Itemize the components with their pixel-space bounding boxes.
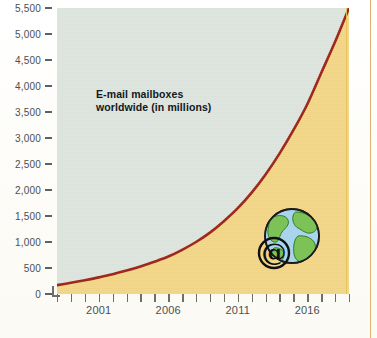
globe-at-symbol-icon: @ [252,206,324,278]
y-axis-tick-label: 1,000 [15,237,41,248]
y-axis-tick-mark [45,85,52,87]
x-axis-tick-mark [57,294,58,302]
y-axis-tick-label: 2,500 [15,159,41,170]
y-axis-tick: 0 [0,288,57,300]
y-axis-tick: 3,500 [0,106,57,118]
y-axis-tick-mark [45,163,52,165]
at-symbol-glyph: @ [262,238,287,267]
y-axis-tick: 4,500 [0,54,57,66]
y-axis-tick: 3,000 [0,132,57,144]
chart-title: E-mail mailboxes worldwide (in millions) [96,88,256,114]
y-axis-tick-label: 4,500 [15,55,41,66]
x-axis-tick-mark [85,294,86,302]
x-axis-tick-mark [349,294,350,302]
y-axis-tick-mark [45,7,52,9]
x-axis-tick-mark [307,294,308,302]
x-axis-tick-mark [99,294,100,302]
x-axis-tick-label: 2011 [226,304,250,316]
y-axis: 5,5005,0004,5004,0003,5003,0002,5002,000… [0,0,57,338]
chart-title-line-2: worldwide (in millions) [96,101,256,114]
y-axis-tick: 1,000 [0,236,57,248]
y-axis-tick-mark [45,215,52,217]
x-axis-tick-mark [154,294,155,302]
x-axis-tick-mark [293,294,294,302]
y-axis-tick: 1,500 [0,210,57,222]
x-axis-tick-mark [140,294,141,302]
y-axis-tick: 5,500 [0,2,57,14]
y-axis-tick-mark [45,189,52,191]
y-axis-tick-mark [45,293,52,295]
fill-right-edge-rule [346,8,347,294]
x-axis-tick-label: 2006 [156,304,181,316]
x-axis-tick-mark [252,294,253,302]
y-axis-tick-mark [45,33,52,35]
x-axis-labels: 2001200620112016 [0,304,377,320]
y-axis-tick-label: 3,500 [15,107,41,118]
y-axis-tick-label: 5,000 [15,29,41,40]
y-axis-tick-mark [45,59,52,61]
y-axis-tick-label: 2,000 [15,185,41,196]
x-axis-tick-label: 2016 [295,304,320,316]
x-axis-tick-mark [224,294,225,302]
x-axis-tick-mark [113,294,114,302]
x-axis-tick-mark [182,294,183,302]
page-edge-rule [370,0,371,338]
y-axis-tick-mark [45,137,52,139]
x-axis-tick-mark [168,294,169,302]
y-axis-tick-mark [45,267,52,269]
x-axis-tick-mark [238,294,239,302]
y-axis-tick: 4,000 [0,80,57,92]
y-axis-tick-label: 5,500 [15,3,41,14]
y-axis-tick: 5,000 [0,28,57,40]
chart-figure: E-mail mailboxes worldwide (in millions)… [0,0,377,338]
y-axis-tick-label: 4,000 [15,81,41,92]
chart-title-line-1: E-mail mailboxes [96,88,183,100]
y-axis-tick-label: 0 [35,289,41,300]
y-axis-tick-mark [45,111,52,113]
x-axis-tick-label: 2001 [86,304,111,316]
x-axis-tick-mark [266,294,267,302]
x-axis-tick-mark [279,294,280,302]
x-axis-tick-mark [127,294,128,302]
y-axis-tick-label: 500 [24,263,41,274]
x-axis-tick-mark [210,294,211,302]
y-axis-tick-mark [45,241,52,243]
x-axis-ticks [57,294,349,302]
x-axis-tick-mark [335,294,336,302]
y-axis-tick: 500 [0,262,57,274]
y-axis-tick-label: 3,000 [15,133,41,144]
x-axis-tick-mark [196,294,197,302]
y-axis-tick-label: 1,500 [15,211,41,222]
y-axis-tick: 2,500 [0,158,57,170]
x-axis-tick-mark [71,294,72,302]
x-axis-tick-mark [321,294,322,302]
y-axis-tick: 2,000 [0,184,57,196]
